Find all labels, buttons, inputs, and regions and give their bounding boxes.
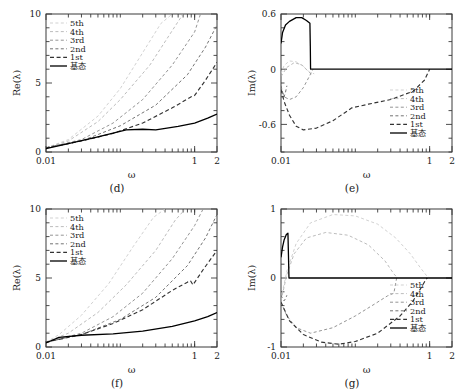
legend-label: 基态 — [70, 256, 86, 266]
x-axis-label: ω — [363, 169, 371, 180]
panel-caption-g: (g) — [235, 377, 469, 389]
x-tick-label: 2 — [449, 351, 455, 361]
x-tick-label: 0.01 — [271, 156, 291, 166]
y-tick-label: 0 — [270, 65, 276, 75]
y-tick-label: 0.6 — [262, 9, 277, 19]
y-tick-label: -1 — [267, 342, 276, 352]
y-tick-label: 0 — [35, 342, 41, 352]
series-line — [281, 215, 430, 299]
panel-e: 0.0112-0.600.6ωIm(λ)5th4th3rd2nd1st基态 (e… — [235, 0, 469, 195]
x-axis-label: ω — [363, 364, 371, 375]
y-axis-label: Im(λ) — [246, 70, 257, 96]
plot-f: 0.01120510ωRe(λ)5th4th3rd2nd1st基态 — [0, 195, 234, 390]
series-line — [281, 295, 287, 301]
curves-group — [281, 215, 452, 345]
figure-grid: 0.01120510ωRe(λ)5th4th3rd2nd1st基态 (d) 0.… — [0, 0, 469, 390]
panel-caption-f: (f) — [0, 377, 234, 389]
panel-caption-d: (d) — [0, 182, 234, 194]
series-line — [46, 14, 172, 148]
series-line — [281, 233, 452, 278]
panel-g: 0.0112-101ωIm(λ)5th4th3rd2nd1st基态 (g) — [235, 195, 469, 390]
series-line — [46, 209, 165, 342]
series-line — [281, 278, 427, 344]
panel-f: 0.01120510ωRe(λ)5th4th3rd2nd1st基态 (f) — [0, 195, 234, 390]
y-axis-label: Re(λ) — [11, 265, 22, 291]
series-line — [281, 232, 398, 300]
x-tick-label: 2 — [214, 156, 220, 166]
x-tick-label: 2 — [214, 351, 220, 361]
y-tick-label: 10 — [30, 9, 42, 19]
series-line — [281, 69, 430, 130]
legend-label: 基态 — [410, 128, 426, 138]
curves-group — [281, 18, 452, 130]
y-axis-label: Im(λ) — [246, 265, 257, 291]
series-line — [46, 313, 217, 343]
y-tick-label: 1 — [270, 204, 276, 214]
series-line — [281, 63, 312, 77]
x-tick-label: 0.01 — [36, 156, 56, 166]
plot-d: 0.01120510ωRe(λ)5th4th3rd2nd1st基态 — [0, 0, 234, 195]
x-axis-label: ω — [128, 169, 136, 180]
panel-caption-e: (e) — [235, 182, 469, 194]
y-tick-label: -0.6 — [259, 120, 277, 130]
series-line — [281, 61, 314, 74]
legend-label: 基态 — [70, 61, 86, 71]
plot-frame — [281, 14, 452, 152]
y-tick-label: 10 — [30, 204, 42, 214]
panel-d: 0.01120510ωRe(λ)5th4th3rd2nd1st基态 (d) — [0, 0, 234, 195]
x-tick-label: 1 — [427, 156, 433, 166]
x-axis-label: ω — [128, 364, 136, 375]
x-tick-label: 0.01 — [36, 351, 56, 361]
x-tick-label: 1 — [192, 351, 198, 361]
y-tick-label: 5 — [35, 78, 41, 88]
series-line — [46, 114, 217, 149]
x-tick-label: 0.01 — [271, 351, 291, 361]
plot-e: 0.0112-0.600.6ωIm(λ)5th4th3rd2nd1st基态 — [235, 0, 469, 195]
series-line — [281, 18, 452, 70]
plot-g: 0.0112-101ωIm(λ)5th4th3rd2nd1st基态 — [235, 195, 469, 390]
x-tick-label: 1 — [192, 156, 198, 166]
series-line — [281, 278, 397, 333]
series-line — [46, 62, 217, 148]
y-tick-label: 0 — [35, 147, 41, 157]
legend-label: 基态 — [410, 323, 426, 333]
x-tick-label: 1 — [427, 351, 433, 361]
y-tick-label: 5 — [35, 273, 41, 283]
y-tick-label: 0 — [270, 273, 276, 283]
series-line — [281, 69, 313, 99]
x-tick-label: 2 — [449, 156, 455, 166]
y-axis-label: Re(λ) — [11, 70, 22, 96]
